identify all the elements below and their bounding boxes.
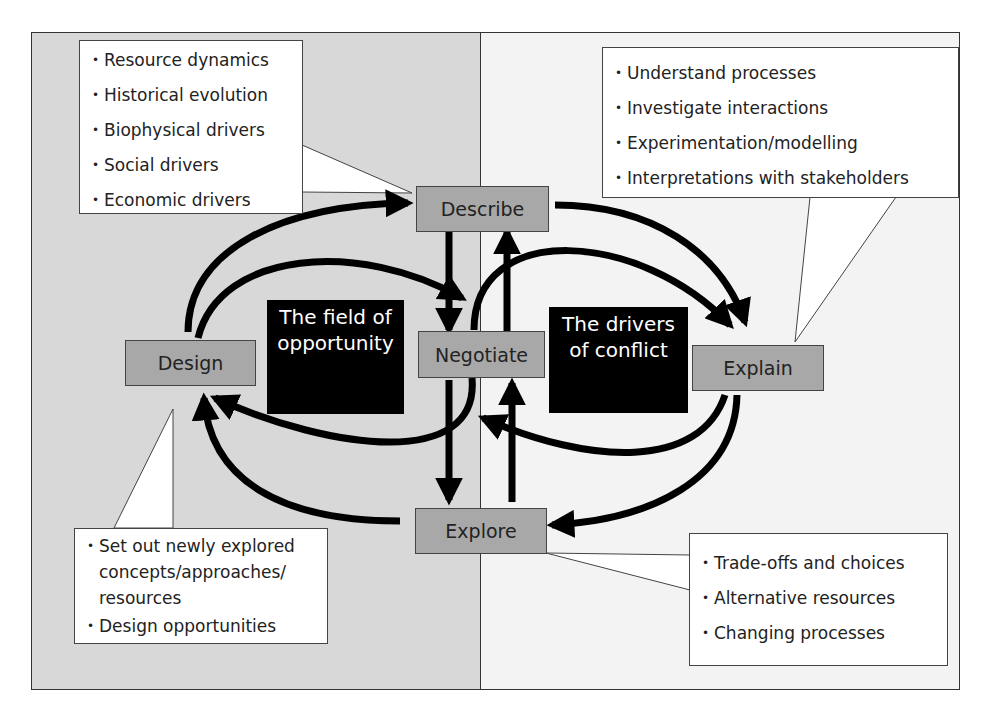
callout-item: Design opportunities [87,613,307,639]
explore-callout-pointer [546,553,690,590]
arrow-describe-to-explain [555,205,745,322]
explain-callout: Understand processes Investigate interac… [602,47,959,198]
explain-callout-pointer [795,197,896,342]
callout-item: Investigate interactions [615,91,946,126]
describe-callout: Resource dynamics Historical evolution B… [79,40,303,214]
drivers-of-conflict-label: The drivers of conflict [549,307,688,413]
callout-item: Understand processes [615,56,946,91]
arrow-explain-to-explore [552,395,737,525]
design-callout: Set out newly explored concepts/approach… [74,528,328,644]
callout-item: Interpretations with stakeholders [615,161,946,196]
callout-item: Experimentation/modelling [615,126,946,161]
describe-callout-pointer [302,145,412,193]
callout-item: Alternative resources [702,581,935,616]
callout-item: Trade-offs and choices [702,546,935,581]
callout-item: Resource dynamics [92,43,290,78]
design-callout-pointer [114,409,173,528]
negotiate-node[interactable]: Negotiate [418,331,545,378]
callout-item: Changing processes [702,616,935,651]
field-of-opportunity-label: The field of opportunity [267,300,404,414]
design-node[interactable]: Design [125,340,256,386]
region-label-line: The field of [275,304,396,330]
describe-node[interactable]: Describe [416,186,549,232]
callout-item: Set out newly explored concepts/approach… [87,533,307,611]
callout-item: Historical evolution [92,78,290,113]
callout-item: Economic drivers [92,183,290,218]
region-label-line: of conflict [557,337,680,363]
explain-node[interactable]: Explain [692,345,824,391]
callout-item: Social drivers [92,148,290,183]
explore-callout: Trade-offs and choices Alternative resou… [689,533,948,666]
callout-item: Biophysical drivers [92,113,290,148]
explore-node[interactable]: Explore [415,508,547,554]
region-label-line: opportunity [275,330,396,356]
arrow-explore-to-design [204,398,400,521]
region-label-line: The drivers [557,311,680,337]
